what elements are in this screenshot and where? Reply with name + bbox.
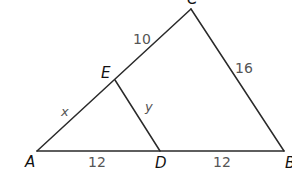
segment-ac	[37, 9, 191, 151]
segment-ed	[115, 80, 160, 151]
length-label-cb: 16	[235, 60, 253, 76]
vertex-label-c: C	[187, 0, 198, 8]
vertex-label-a: A	[24, 153, 35, 171]
length-label-ed: y	[144, 99, 153, 114]
vertex-label-d: D	[155, 154, 167, 172]
length-label-ec: 10	[133, 31, 151, 47]
segment-cb	[191, 9, 284, 151]
length-label-ae: x	[60, 104, 69, 119]
vertex-label-b: B	[285, 154, 292, 172]
length-label-db: 12	[213, 154, 231, 170]
triangle-diagram: C E A D B 10 16 x y 12 12	[0, 0, 292, 173]
vertex-label-e: E	[101, 64, 111, 82]
length-label-ad: 12	[88, 154, 106, 170]
